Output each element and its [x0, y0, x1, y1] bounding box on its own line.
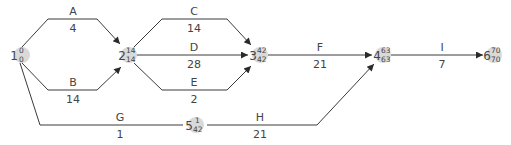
activity-g-duration: 1	[117, 128, 124, 141]
activity-b-duration: 14	[66, 93, 80, 106]
activity-h-duration: 21	[253, 128, 267, 141]
node-5-id: 5	[185, 119, 193, 133]
node-4-early: 63	[381, 46, 391, 55]
activity-c-duration: 14	[187, 22, 201, 35]
node-3-early: 42	[257, 46, 267, 55]
node-2: 2 14 14	[118, 46, 137, 64]
activity-i-name: I	[440, 41, 443, 54]
activity-d-name: D	[190, 41, 198, 54]
node-4-late: 63	[381, 55, 391, 64]
network-diagram: A 4 B 14 C 14 D 28 E 2 F 21 G 1 H 2	[0, 0, 511, 145]
node-3-late: 42	[257, 55, 267, 64]
activity-i: I 7	[391, 41, 483, 71]
node-2-id: 2	[118, 49, 126, 63]
activity-h: H 21	[207, 64, 374, 141]
activity-a: A 4	[22, 5, 120, 47]
node-1-early: 0	[19, 46, 24, 55]
node-4-id: 4	[373, 49, 381, 63]
node-6-id: 6	[483, 49, 491, 63]
arrow-g	[20, 63, 183, 125]
activity-c-name: C	[190, 5, 198, 18]
node-1-late: 0	[19, 55, 24, 64]
node-1-id: 1	[10, 49, 18, 63]
activity-h-name: H	[256, 111, 264, 124]
activity-e-duration: 2	[191, 93, 198, 106]
node-5: 5 1 42	[185, 116, 204, 134]
node-4: 4 63 63	[373, 46, 391, 64]
node-3-id: 3	[249, 49, 257, 63]
activity-f: F 21	[268, 41, 372, 71]
activity-g-name: G	[116, 111, 125, 124]
node-6-late: 70	[491, 55, 501, 64]
activity-f-name: F	[317, 41, 323, 54]
activity-a-duration: 4	[70, 22, 77, 35]
activity-i-duration: 7	[439, 58, 446, 71]
arrow-h	[207, 64, 374, 125]
activity-g: G 1	[20, 63, 183, 141]
node-2-late: 14	[126, 55, 136, 64]
activity-b: B 14	[22, 63, 121, 106]
activity-a-name: A	[69, 5, 77, 18]
node-6: 6 70 70	[483, 46, 502, 64]
node-2-early: 14	[126, 46, 136, 55]
node-5-early: 1	[195, 116, 200, 125]
activity-d-duration: 28	[187, 58, 201, 71]
activity-f-duration: 21	[313, 58, 327, 71]
node-1: 1 0 0	[10, 46, 30, 64]
node-5-late: 42	[193, 125, 203, 134]
activity-e-name: E	[191, 76, 198, 89]
node-3: 3 42 42	[249, 46, 268, 64]
node-6-early: 70	[491, 46, 501, 55]
activity-b-name: B	[69, 76, 77, 89]
activity-d: D 28	[135, 41, 248, 71]
